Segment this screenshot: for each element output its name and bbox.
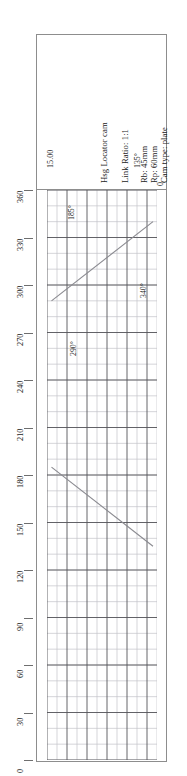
y-tick-label: 210 <box>16 428 25 441</box>
y-tick <box>24 760 33 761</box>
y-axis: 0306090120150180210240270300330360 <box>0 190 36 762</box>
y-tick <box>24 238 33 239</box>
y-tick <box>24 570 33 571</box>
y-tick-label: 360 <box>16 190 25 203</box>
annotation-290: 290° <box>69 341 78 356</box>
plot-area: 290° 340° 185° 135° <box>36 190 167 762</box>
y-tick-label: 240 <box>16 380 25 393</box>
y-tick <box>24 665 33 666</box>
annotation-340: 340° <box>139 283 148 298</box>
zero-label: 0 <box>156 182 165 186</box>
grid-major-horizontal <box>47 190 157 760</box>
y-tick <box>24 285 33 286</box>
y-tick-label: 60 <box>16 670 25 678</box>
title-line-link-ratio: Link Ratio: 1:1 <box>121 129 130 183</box>
y-tick <box>24 428 33 429</box>
y-tick <box>24 475 33 476</box>
y-tick <box>24 713 33 714</box>
y-tick-label: 270 <box>16 333 25 346</box>
y-tick <box>24 380 33 381</box>
y-tick-label: 300 <box>16 285 25 298</box>
y-tick-label: 330 <box>16 238 25 251</box>
dimension-label-15: 15.00 <box>46 150 55 168</box>
y-tick-label: 0 <box>16 769 25 773</box>
y-tick-label: 180 <box>16 475 25 488</box>
grid-svg <box>47 190 157 760</box>
y-tick-label: 90 <box>16 622 25 630</box>
y-tick <box>24 190 33 191</box>
y-tick <box>24 523 33 524</box>
y-tick-label: 30 <box>16 717 25 725</box>
grid <box>47 190 157 760</box>
title-block: Hsg Locator cam Link Ratio: 1:1 Rb: 45mm… <box>36 34 167 190</box>
y-tick-label: 120 <box>16 570 25 583</box>
y-tick-label: 150 <box>16 523 25 536</box>
y-tick <box>24 333 33 334</box>
annotation-135: 135° <box>133 153 142 168</box>
drawing-sheet: Hsg Locator cam Link Ratio: 1:1 Rb: 45mm… <box>0 0 187 776</box>
title-block-text: Hsg Locator cam Link Ratio: 1:1 Rb: 45mm… <box>37 35 168 191</box>
annotation-185: 185° <box>67 205 76 220</box>
title-line-cam-name: Hsg Locator cam <box>100 122 109 183</box>
title-line-cam-type: Cam type: plate <box>160 127 169 183</box>
title-line-rp: Rp: 60mm <box>150 146 159 183</box>
y-tick <box>24 618 33 619</box>
